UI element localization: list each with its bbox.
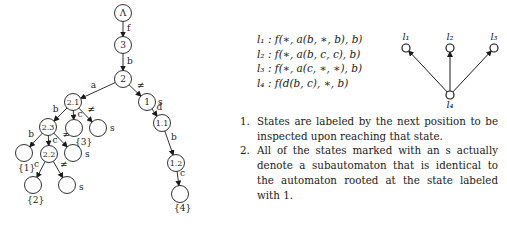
- edge-label: b: [127, 56, 133, 66]
- edge-label: ≠: [60, 159, 68, 169]
- pattern-l3: l₃ : f(∗, a(c, ∗, ∗), b): [257, 61, 362, 76]
- match-set-label: {2}: [27, 195, 44, 205]
- edge-label: ≠: [88, 104, 96, 114]
- pattern-node-label: l₁: [402, 31, 409, 42]
- state-node: [66, 120, 83, 137]
- automaton-tree-diagram: fba≠bc≠bc≠c≠dbc Λ322.112.31.12.21.2 ssss…: [0, 0, 240, 228]
- pattern-node-label: l₂: [446, 31, 453, 42]
- note-number: 1.: [240, 114, 257, 143]
- match-set-label: {4}: [174, 203, 191, 213]
- subautomaton-marker: s: [110, 123, 115, 133]
- note-number: 2.: [240, 143, 257, 202]
- state-label: 1.2: [170, 159, 183, 168]
- tree-edge: [81, 83, 116, 99]
- pattern-l2: l₂ : f(∗, a(b, c, c), b): [257, 47, 362, 62]
- state-label: 1: [144, 97, 150, 107]
- edge-label: a: [91, 80, 97, 90]
- state-label: 2.3: [42, 123, 55, 132]
- state-label: 2.2: [43, 150, 56, 159]
- pattern-node: [446, 44, 454, 52]
- state-node: [16, 145, 33, 162]
- match-set-label: {3}: [75, 137, 92, 147]
- edge-label: b: [28, 129, 34, 139]
- edge-label: ≠: [137, 80, 145, 90]
- edge-label: b: [171, 132, 177, 142]
- state-label: 2: [120, 74, 126, 84]
- note-1: 1. States are labeled by the next positi…: [240, 114, 498, 143]
- state-node: [25, 177, 42, 194]
- subautomaton-marker: s: [85, 149, 90, 159]
- match-set-label: {1}: [18, 163, 35, 173]
- dag-edge: [453, 51, 492, 92]
- state-node: [65, 145, 82, 162]
- pattern-node-label: l₄: [446, 99, 453, 110]
- note-text: States are labeled by the next position …: [257, 114, 498, 143]
- edge-label: f: [127, 23, 131, 33]
- pattern-node: [490, 44, 498, 52]
- pattern-list: l₁ : f(∗, a(b, ∗, b), b) l₂ : f(∗, a(b, …: [257, 32, 362, 90]
- pattern-node: [446, 91, 454, 99]
- dag-edge: [409, 51, 448, 92]
- state-node: [59, 177, 76, 194]
- pattern-node: [402, 44, 410, 52]
- subautomaton-marker: s: [158, 97, 163, 107]
- state-label: 1.1: [156, 119, 169, 128]
- pattern-subsumption-dag: l₁l₂l₃l₄: [390, 20, 507, 110]
- edge-label: b: [53, 104, 59, 114]
- state-node: [90, 120, 107, 137]
- note-text: All of the states marked with an s actua…: [257, 143, 498, 202]
- pattern-l4: l₄ : f(d(b, c), ∗, b): [257, 76, 362, 91]
- state-label: 2.1: [67, 98, 80, 107]
- state-label: Λ: [119, 8, 127, 18]
- tree-edge: [177, 171, 179, 185]
- pattern-node-label: l₃: [490, 31, 497, 42]
- pattern-l1: l₁ : f(∗, a(b, ∗, b), b): [257, 32, 362, 47]
- notes-list: 1. States are labeled by the next positi…: [240, 114, 498, 202]
- state-label: 3: [120, 40, 126, 50]
- state-node: [172, 186, 189, 203]
- subautomaton-marker: s: [79, 182, 84, 192]
- note-2: 2. All of the states marked with an s ac…: [240, 143, 498, 202]
